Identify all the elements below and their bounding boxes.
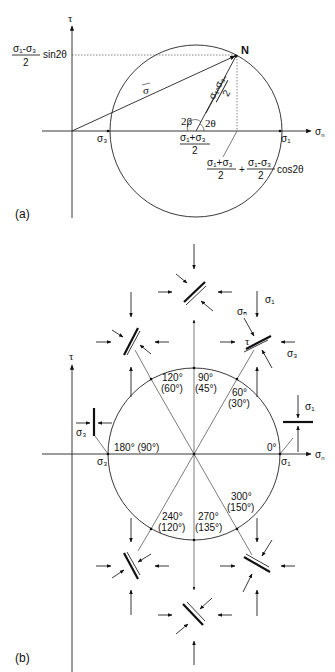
angle-0-label: 0° <box>267 442 277 453</box>
leader-120 <box>135 350 151 379</box>
svg-text:2: 2 <box>192 145 198 156</box>
plane-120 <box>96 292 169 397</box>
cos-term-leader <box>223 131 237 157</box>
svg-text:+: + <box>239 164 245 175</box>
angle-240-label: 240° <box>162 511 183 522</box>
leader-240 <box>138 529 151 551</box>
plane-0: σ₁ <box>283 395 315 452</box>
svg-text:σ₁-σ₃: σ₁-σ₃ <box>248 157 271 168</box>
radius-label: σ₁-σ₃ 2 <box>206 75 237 107</box>
angle-300-label: 300° <box>231 491 252 502</box>
panel-b-label: (b) <box>15 651 30 665</box>
tau-small-label: τ <box>245 335 250 347</box>
sigma1-point-a <box>279 130 282 133</box>
svg-text:σ₁+σ₃: σ₁+σ₃ <box>207 157 233 168</box>
sigma-n-small-label: σₙ <box>237 306 247 317</box>
angle-270-label: 270° <box>198 511 219 522</box>
sigma-n-axis-label-a: σn <box>315 126 325 138</box>
sigma1-label-a: σ₁ <box>281 133 291 144</box>
leader-60 <box>237 350 254 379</box>
sigma3-label-b: σ₃ <box>97 456 107 467</box>
cos-term-label: σ₁+σ₃ 2 + σ₁-σ₃ 2 cos2θ <box>207 157 304 181</box>
leader-0 <box>280 438 293 454</box>
vector-sigma-label: σ <box>143 84 149 96</box>
leader-180 <box>95 436 108 454</box>
svg-text:cos2θ: cos2θ <box>277 164 304 175</box>
svg-text:2: 2 <box>220 88 233 98</box>
mohr-circle-figure: τ σn N σ σ₁-σ₃ 2 2β 2θ σ₁-σ₃ <box>0 0 335 672</box>
angle-60-sub-label: (30°) <box>228 398 250 409</box>
point-n-label: N <box>241 44 249 56</box>
plane-60: σ₁ σ₃ σₙ τ <box>220 291 297 397</box>
panel-a: τ σn N σ σ₁-σ₃ 2 2β 2θ σ₁-σ₃ <box>12 12 325 221</box>
tau-axis-label-b: τ <box>69 350 74 362</box>
sin-term-label: σ₁-σ₃ 2 sin2θ <box>12 43 67 68</box>
tau-axis-label-a: τ <box>68 12 73 24</box>
svg-text:2: 2 <box>258 170 264 181</box>
svg-text:σ₁+σ₃: σ₁+σ₃ <box>180 132 206 143</box>
sigma-n-axis-label-b: σn <box>315 449 325 461</box>
sigma3-label-a: σ₃ <box>97 133 107 144</box>
leader-300 <box>237 529 252 555</box>
angle-90-label: 90° <box>198 372 213 383</box>
panel-b: τ σn 0° 60° (30°) 90° (45°) 120° (60°) <box>15 244 325 672</box>
angle-120-sub-label: (60°) <box>161 383 183 394</box>
svg-text:2: 2 <box>23 57 29 68</box>
svg-text:σ₁-σ₃: σ₁-σ₃ <box>13 43 36 54</box>
angle-240-sub-label: (120°) <box>158 522 185 533</box>
arc-2theta <box>200 124 204 131</box>
sigma3-label-left: σ₃ <box>76 427 86 438</box>
angle-60-label: 60° <box>232 387 247 398</box>
center-term-label: σ₁+σ₃ 2 <box>180 132 210 156</box>
angle-90-sub-label: (45°) <box>195 383 217 394</box>
angle-2theta-label: 2θ <box>205 117 216 129</box>
plane-90 <box>158 244 232 311</box>
angle-2beta-label: 2β <box>181 115 193 127</box>
sigma1-label-b: σ₁ <box>281 456 291 467</box>
sigma3-label-right: σ₃ <box>287 348 297 359</box>
angle-120-label: 120° <box>162 372 183 383</box>
sigma3-point-a <box>107 130 110 133</box>
angle-180-label: 180° (90°) <box>114 442 159 453</box>
plane-300 <box>220 518 295 616</box>
svg-text:2: 2 <box>218 170 224 181</box>
angle-270-sub-label: (135°) <box>195 522 222 533</box>
sigma1-label-top: σ₁ <box>265 294 275 305</box>
svg-text:sin2θ: sin2θ <box>43 49 67 60</box>
plane-180: σ₃ <box>76 408 112 438</box>
panel-a-label: (a) <box>15 207 30 221</box>
sigma1-label-right: σ₁ <box>305 401 315 412</box>
plane-270 <box>158 598 232 665</box>
point-n-marker <box>234 54 237 57</box>
angle-300-sub-label: (150°) <box>227 502 254 513</box>
